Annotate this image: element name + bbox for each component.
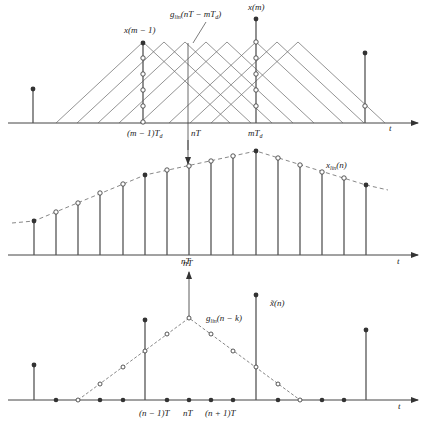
kernel-intersection	[141, 120, 145, 124]
kernel-intersection	[254, 56, 258, 60]
label-x-lin: xlin(n)	[325, 160, 347, 171]
label-x-m-1: x(m − 1)	[123, 25, 156, 35]
kernel-intersection	[254, 40, 258, 44]
tick-m-1-Td: (m − 1)Td	[127, 128, 164, 139]
kernel-samples	[76, 316, 302, 402]
axis-t-bottom: t	[398, 401, 401, 411]
top-stem-x-m-1-head	[141, 41, 146, 46]
linear-interpolation-diagram: x(m − 1) x(m) glin(nT − mTd) (m − 1)Td n…	[0, 0, 426, 427]
label-kernel-bottom: glin(n − k)	[206, 313, 242, 324]
linear-envelope	[12, 151, 388, 223]
middle-panel: xlin(n) t nT	[8, 149, 418, 266]
tick-nT-bottom: nT	[183, 408, 194, 418]
top-panel: x(m − 1) x(m) glin(nT − mTd) (m − 1)Td n…	[8, 2, 418, 150]
tick-m-Td: mTd	[248, 128, 264, 139]
axis-t-top: t	[389, 123, 392, 133]
axis-t-middle: t	[397, 256, 400, 266]
kernel-intersection	[141, 56, 145, 60]
bottom-panel: nT glin(n − k) x̃(n) (n − 1)T nT (n + 1)…	[8, 258, 418, 418]
label-nT-bottom-arrow: nT	[183, 258, 194, 268]
label-kernel-top: glin(nT − mTd)	[170, 9, 221, 20]
kernel-intersection	[254, 88, 258, 92]
kernel-intersection	[254, 104, 258, 108]
tick-n-1-T: (n − 1)T	[139, 408, 171, 418]
tick-nT-top: nT	[191, 128, 202, 138]
kernel-intersection	[141, 88, 145, 92]
kernel-intersection	[141, 72, 145, 76]
top-stem-4-head	[363, 51, 368, 56]
top-stem-1-head	[31, 87, 36, 92]
kernel-intersection	[254, 72, 258, 76]
triangular-kernel	[78, 318, 300, 400]
kernel-pointer-line	[193, 22, 206, 43]
kernel-intersection	[141, 104, 145, 108]
kernel-triangles	[56, 42, 385, 123]
top-stem-x-m-head	[254, 17, 259, 22]
label-x-tilde: x̃(n)	[269, 298, 285, 308]
interpolated-stems	[32, 149, 369, 255]
tick-n-plus-1-T: (n + 1)T	[205, 408, 237, 418]
kernel-intersection	[363, 104, 367, 108]
label-x-m: x(m)	[247, 2, 265, 12]
